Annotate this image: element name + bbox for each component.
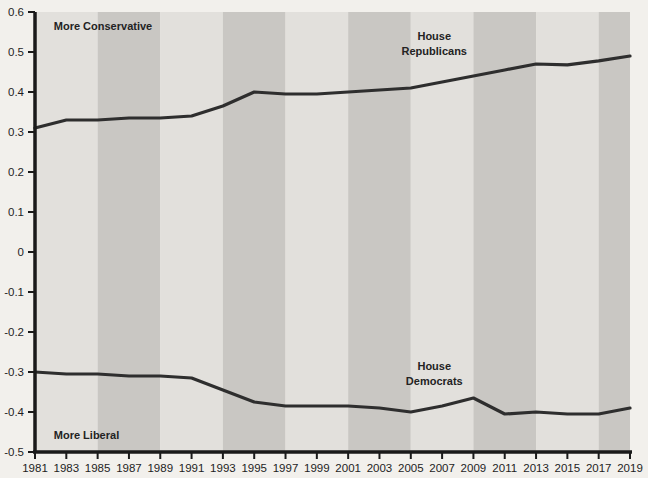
y-axis-tick-labels: -0.5-0.4-0.3-0.2-0.100.10.20.30.40.50.6 [4, 6, 24, 458]
x-axis-tick-label: 2001 [335, 462, 361, 474]
y-axis-tick-label: 0.1 [8, 206, 24, 218]
x-axis-tick-label: 1999 [304, 462, 330, 474]
chart-container: -0.5-0.4-0.3-0.2-0.100.10.20.30.40.50.6 … [0, 0, 648, 478]
background-band [35, 12, 98, 452]
background-band [286, 12, 349, 452]
y-axis-tick-label: 0.4 [8, 86, 25, 98]
x-axis-tick-label: 1993 [210, 462, 236, 474]
background-band [348, 12, 411, 452]
x-axis-tick-label: 1985 [85, 462, 111, 474]
x-axis-tick-label: 2013 [523, 462, 549, 474]
y-axis-tick-label: -0.5 [4, 446, 24, 458]
y-axis-tick-label: 0.3 [8, 126, 24, 138]
x-axis-tick-label: 2007 [429, 462, 455, 474]
x-axis-tick-label: 2009 [461, 462, 487, 474]
series-label-line-1: House [417, 360, 451, 372]
background-bands [35, 12, 630, 452]
y-axis-tick-label: 0.5 [8, 46, 24, 58]
series-label-line-2: Democrats [406, 375, 463, 387]
y-axis-tick-label: 0.6 [8, 6, 24, 18]
more-liberal-annotation: More Liberal [54, 429, 119, 441]
x-axis-tick-labels: 1981198319851987198919911993199519971999… [22, 462, 643, 474]
x-axis-tick-label: 2003 [367, 462, 393, 474]
x-axis-tick-label: 1997 [273, 462, 299, 474]
x-axis-tick-label: 1995 [241, 462, 267, 474]
x-axis-tick-label: 1991 [179, 462, 205, 474]
x-axis-tick-label: 1983 [54, 462, 80, 474]
series-label-line-2: Republicans [402, 45, 467, 57]
x-axis-tick-label: 2005 [398, 462, 424, 474]
pol-polarization-line-chart: -0.5-0.4-0.3-0.2-0.100.10.20.30.40.50.6 … [0, 0, 648, 478]
x-axis-tick-label: 1989 [147, 462, 173, 474]
y-axis-tick-label: -0.3 [4, 366, 24, 378]
x-axis-tick-label: 2015 [555, 462, 581, 474]
y-axis-tick-label: 0 [18, 246, 24, 258]
x-axis-tick-label: 2019 [617, 462, 643, 474]
background-band [223, 12, 286, 452]
background-band [473, 12, 536, 452]
y-axis-tick-label: 0.2 [8, 166, 24, 178]
x-axis-tick-label: 1981 [22, 462, 48, 474]
y-axis-tick-label: -0.2 [4, 326, 24, 338]
y-axis-tick-label: -0.1 [4, 286, 24, 298]
background-band [98, 12, 161, 452]
y-axis-tick-label: -0.4 [4, 406, 24, 418]
x-axis-tick-label: 1987 [116, 462, 142, 474]
series-label-line-1: House [417, 30, 451, 42]
background-band [536, 12, 599, 452]
background-band [599, 12, 630, 452]
x-axis-tick-label: 2017 [586, 462, 612, 474]
x-axis-tick-label: 2011 [492, 462, 517, 474]
more-conservative-annotation: More Conservative [54, 20, 152, 32]
